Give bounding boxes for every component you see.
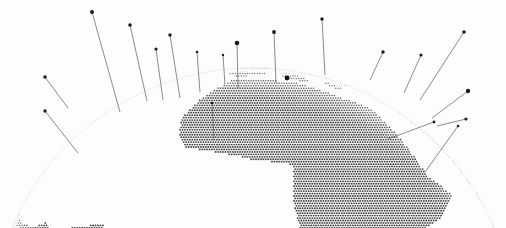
spike-line xyxy=(420,32,464,100)
spike-cap-marker[interactable] xyxy=(457,125,460,128)
spike-cap-marker[interactable] xyxy=(464,117,467,120)
spike-line xyxy=(404,55,421,93)
spike-cap-marker[interactable] xyxy=(433,121,436,124)
spike-cap-marker[interactable] xyxy=(196,51,199,54)
spike-line xyxy=(437,119,466,126)
spike-cap-marker[interactable] xyxy=(43,109,46,112)
spike-cap-marker[interactable] xyxy=(43,75,47,79)
spike-cap-marker[interactable] xyxy=(419,53,422,56)
globe-visualization xyxy=(0,0,506,228)
spike-cap-marker[interactable] xyxy=(320,17,323,20)
spike-line xyxy=(322,19,325,75)
spike-cap-marker[interactable] xyxy=(272,30,276,34)
spike-line xyxy=(370,52,383,80)
spike-cap-marker[interactable] xyxy=(235,41,240,46)
spike-line xyxy=(388,122,434,139)
spike-line xyxy=(432,91,468,118)
anchor-dot-marker[interactable] xyxy=(285,76,290,81)
spike-line xyxy=(92,12,120,112)
spike-line xyxy=(45,111,78,153)
spike-cap-marker[interactable] xyxy=(128,23,132,27)
spike-line xyxy=(212,103,214,140)
spike-line xyxy=(425,126,458,172)
spike-line xyxy=(237,43,238,88)
spike-overlay-layer xyxy=(0,0,506,228)
spike-line-group xyxy=(45,12,468,172)
spike-cap-marker[interactable] xyxy=(90,10,94,14)
spike-line xyxy=(156,49,163,100)
spike-line xyxy=(274,32,276,83)
spike-line xyxy=(130,25,147,101)
spike-line xyxy=(170,35,180,98)
spike-cap-marker[interactable] xyxy=(154,47,157,50)
spike-cap-marker[interactable] xyxy=(168,33,171,36)
spike-cap-group xyxy=(43,10,470,127)
spike-cap-marker[interactable] xyxy=(381,50,384,53)
spike-cap-marker[interactable] xyxy=(462,30,466,34)
spike-line xyxy=(45,77,68,108)
spike-line xyxy=(223,55,225,85)
spike-cap-marker[interactable] xyxy=(211,102,214,105)
spike-line xyxy=(197,52,200,92)
spike-cap-marker[interactable] xyxy=(466,89,470,93)
spike-cap-marker[interactable] xyxy=(222,54,224,56)
